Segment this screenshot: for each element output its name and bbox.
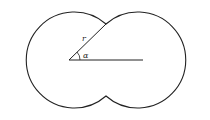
angle-label: α (83, 51, 89, 60)
angle-arc (77, 52, 80, 60)
polar-curve-diagram: r α (0, 0, 210, 120)
radius-label: r (82, 34, 87, 43)
